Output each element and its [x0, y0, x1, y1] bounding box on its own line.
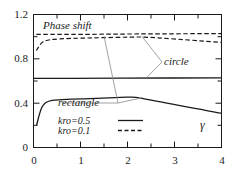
- y-tick-label-1-2: 1.2: [2, 9, 28, 20]
- x-tick-label-3: 3: [165, 155, 185, 166]
- y-tick-label-0: 0: [2, 142, 28, 153]
- plot-area: [0, 0, 233, 179]
- y-tick-label-0-4: 0.4: [2, 98, 28, 109]
- annotation-phase-shift: Phase shift: [43, 20, 92, 31]
- legend-swatches: [118, 121, 143, 131]
- y-axis-ticks-right: [216, 15, 222, 148]
- x-tick-label-1: 1: [71, 155, 91, 166]
- curve-circle-kro01: [36, 34, 221, 35]
- chart-figure: 1.2 0.8 0.4 0 0 1 2 3 4 Phase shift circ…: [0, 0, 233, 179]
- annotation-rectangle: rectangle: [58, 97, 99, 108]
- x-axis-label-gamma: γ: [200, 119, 205, 131]
- y-tick-label-0-8: 0.8: [2, 53, 28, 64]
- x-tick-label-2: 2: [118, 155, 138, 166]
- annotation-circle: circle: [164, 56, 189, 67]
- curve-rectangle-kro01: [36, 37, 221, 51]
- x-tick-label-0: 0: [24, 155, 44, 166]
- x-axis-ticks: [34, 142, 222, 148]
- leader-lines-circle: [142, 37, 162, 79]
- leader-lines-rectangle: [62, 36, 143, 103]
- x-tick-label-4: 4: [212, 155, 232, 166]
- legend-label-kro01: kro=0.1: [58, 126, 90, 136]
